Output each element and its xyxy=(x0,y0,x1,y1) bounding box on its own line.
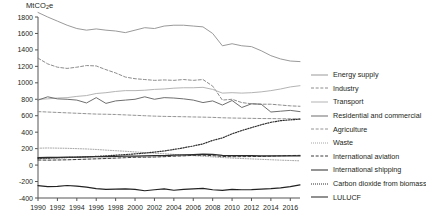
x-tick-label: 2016 xyxy=(283,204,299,211)
y-tick-label: 800 xyxy=(21,96,33,103)
legend-item[interactable]: LULUCF xyxy=(311,190,421,204)
x-tick-label: 2006 xyxy=(185,204,201,211)
legend-item-label: LULUCF xyxy=(333,193,361,202)
series-line xyxy=(38,58,300,106)
chart-legend: Energy supplyIndustryTransportResidentia… xyxy=(311,68,421,204)
x-axis-ticks: 1990199219941996199820002002200420062008… xyxy=(30,198,298,211)
legend-item[interactable]: International shipping xyxy=(311,163,421,177)
legend-item-label: International shipping xyxy=(333,165,401,174)
legend-line-icon xyxy=(311,179,328,188)
legend-item-label: Industry xyxy=(333,84,359,93)
legend-item-label: Agriculture xyxy=(333,125,367,134)
legend-item-label: International aviation xyxy=(333,152,399,161)
series-line xyxy=(38,97,300,112)
legend-line-icon xyxy=(311,165,328,174)
series-line xyxy=(38,12,300,61)
y-tick-label: 400 xyxy=(21,129,33,136)
x-tick-label: 1996 xyxy=(88,204,104,211)
legend-item-label: Energy supply xyxy=(333,70,379,79)
x-tick-label: 1992 xyxy=(50,204,66,211)
legend-line-icon xyxy=(311,152,328,161)
legend-item[interactable]: Residential and commercial xyxy=(311,109,421,123)
y-tick-label: 1200 xyxy=(17,63,33,70)
y-tick-label: 200 xyxy=(21,145,33,152)
legend-item[interactable]: Energy supply xyxy=(311,68,421,82)
legend-line-icon xyxy=(311,97,328,106)
legend-line-icon xyxy=(311,84,328,93)
x-tick-label: 2002 xyxy=(147,204,163,211)
x-tick-label: 2010 xyxy=(224,204,240,211)
x-tick-label: 2012 xyxy=(244,204,260,211)
legend-item-label: Transport xyxy=(333,97,364,106)
series-line xyxy=(38,119,300,158)
legend-item-label: Residential and commercial xyxy=(333,111,421,120)
legend-item-label: Waste xyxy=(333,138,353,147)
series-line xyxy=(38,112,300,119)
legend-line-icon xyxy=(311,138,328,147)
series-line xyxy=(38,86,300,100)
y-tick-label: 1800 xyxy=(17,14,33,21)
y-tick-label: 1600 xyxy=(17,30,33,37)
x-tick-label: 1990 xyxy=(30,204,46,211)
y-tick-label: 600 xyxy=(21,112,33,119)
legend-line-icon xyxy=(311,111,328,120)
y-tick-label: -400 xyxy=(19,195,33,202)
y-tick-label: 1400 xyxy=(17,46,33,53)
legend-item[interactable]: Agriculture xyxy=(311,122,421,136)
y-tick-label: 0 xyxy=(29,162,33,169)
x-tick-label: 2004 xyxy=(166,204,182,211)
y-axis-ticks: 180016001400120010008006004002000-200-40… xyxy=(17,14,38,202)
legend-item[interactable]: Waste xyxy=(311,136,421,150)
legend-item[interactable]: Industry xyxy=(311,82,421,96)
y-tick-label: 1000 xyxy=(17,79,33,86)
x-tick-label: 2014 xyxy=(263,204,279,211)
legend-line-icon xyxy=(311,125,328,134)
data-series xyxy=(38,12,300,190)
legend-line-icon xyxy=(311,70,328,79)
legend-line-icon xyxy=(311,193,328,202)
x-tick-label: 2008 xyxy=(205,204,221,211)
legend-item-label: Carbon dioxide from biomass xyxy=(333,179,426,188)
x-tick-label: 2000 xyxy=(127,204,143,211)
series-line xyxy=(38,185,300,191)
x-tick-label: 1998 xyxy=(108,204,124,211)
x-tick-label: 1994 xyxy=(69,204,85,211)
y-tick-label: -200 xyxy=(19,178,33,185)
legend-item[interactable]: Transport xyxy=(311,95,421,109)
legend-item[interactable]: International aviation xyxy=(311,150,421,164)
legend-item[interactable]: Carbon dioxide from biomass xyxy=(311,177,421,191)
